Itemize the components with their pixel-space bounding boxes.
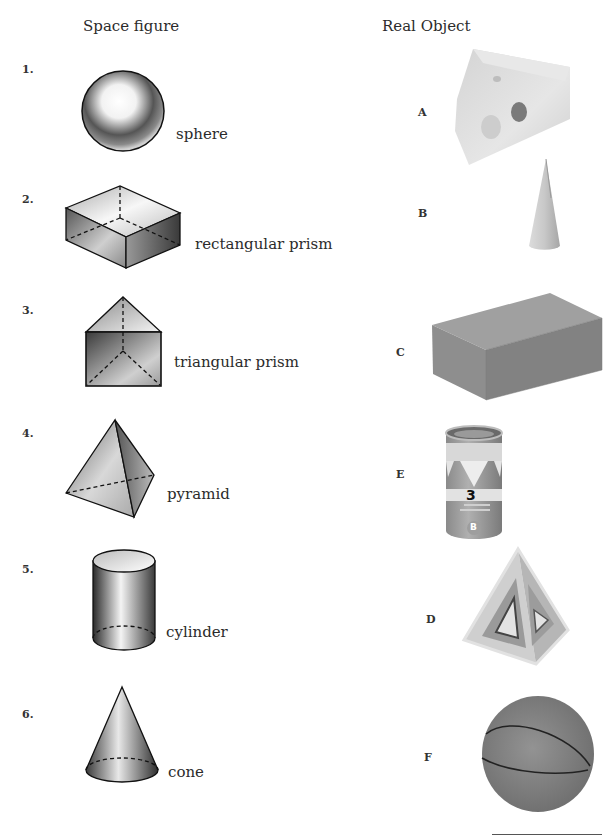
object-letter-f: F [424,751,432,764]
cutoff-text-line [40,0,600,3]
figure-name-cylinder: cylinder [166,623,228,641]
object-letter-b: B [418,207,427,220]
figure-number-6: 6. [22,708,33,721]
figure-number-4: 4. [22,427,33,440]
pyramid-figure-icon [64,420,160,520]
box-object-icon [430,292,604,402]
can-label-badge: B [470,522,477,532]
ice-cream-cone-object-icon [527,158,561,254]
pyramid-object-icon [462,548,570,666]
sphere-figure-icon [80,70,170,154]
answer-line [492,834,602,835]
shuttlecock-can-object: 3 B [444,425,504,541]
cheese-object-icon [455,49,575,167]
figure-number-3: 3. [22,304,33,317]
figure-name-cone: cone [168,763,204,781]
can-label-number: 3 [466,487,476,503]
ball-object-icon [480,694,596,814]
figure-number-1: 1. [22,63,33,76]
header-space-figure: Space figure [83,17,179,35]
cylinder-figure-icon [91,548,157,652]
header-real-object: Real Object [382,17,471,35]
figure-name-pyramid-label: pyramid [167,485,230,503]
triangular-prism-figure-icon [84,296,164,388]
figure-number-2: 2. [22,193,33,206]
cone-figure-icon [84,686,160,782]
figure-name-sphere: sphere [176,125,228,143]
object-letter-c: C [396,346,405,359]
figure-name-triangular-prism: triangular prism [174,353,299,371]
rectangular-prism-figure-icon [64,185,184,270]
figure-number-5: 5. [22,563,33,576]
object-letter-e: E [396,468,404,481]
object-letter-a: A [418,106,427,119]
object-letter-d: D [426,613,436,626]
figure-name-rectangular-prism: rectangular prism [195,235,333,253]
